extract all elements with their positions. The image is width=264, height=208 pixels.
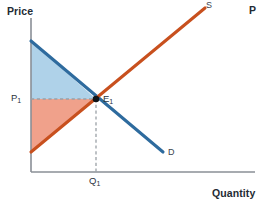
- equilibrium-price-label: P1: [11, 93, 21, 103]
- equilibrium-point-label: E1: [103, 94, 113, 104]
- adjacent-panel-clipped-label: P: [249, 5, 264, 16]
- equilibrium-quantity-label: Q1: [89, 176, 100, 186]
- equilibrium-subscript: 1: [109, 98, 113, 105]
- x-axis-title: Quantity: [212, 188, 255, 199]
- y-axis-title: Price: [7, 6, 33, 17]
- supply-curve-label: S: [206, 1, 212, 10]
- supply-demand-chart: [0, 0, 264, 208]
- equilibrium-point-marker: [93, 96, 100, 103]
- chart-canvas: Price Quantity S D E1 P1 Q1 P: [0, 0, 264, 208]
- quantity-subscript: 1: [96, 180, 100, 187]
- price-subscript: 1: [17, 97, 21, 104]
- demand-curve-label: D: [168, 148, 175, 157]
